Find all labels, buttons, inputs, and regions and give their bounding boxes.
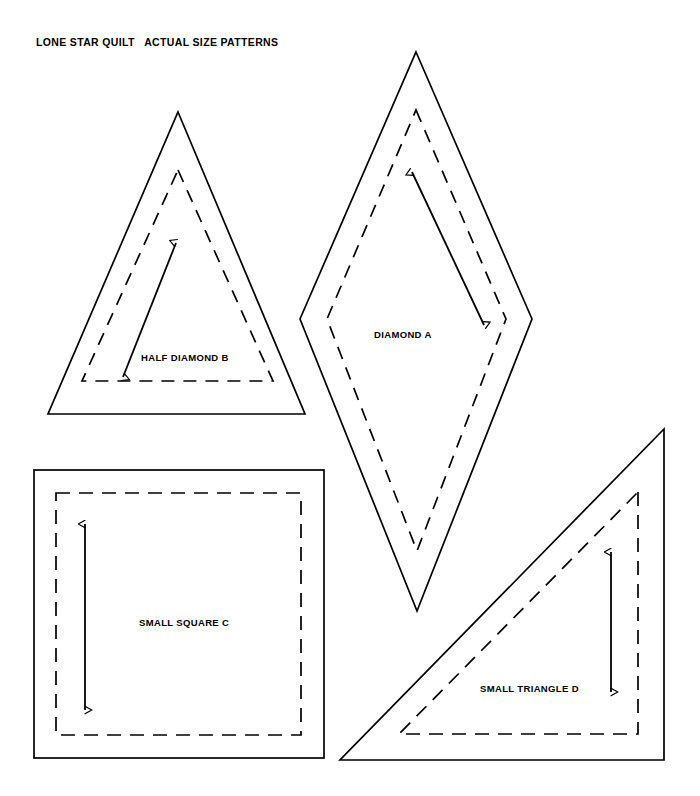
pattern-label-diamond-a: DIAMOND A (374, 330, 432, 340)
pattern-sheet: LONE STAR QUILT ACTUAL SIZE PATTERNS (0, 0, 700, 796)
half-diamond-b-outline (48, 112, 305, 414)
half-diamond-b-seam-line (82, 170, 273, 381)
diamond-a-grain-arrow (412, 172, 484, 325)
small-square-c-seam-line (56, 493, 301, 735)
pattern-label-half-diamond-b: HALF DIAMOND B (141, 353, 229, 363)
small-triangle-d-seam-line (399, 492, 638, 734)
pattern-canvas (0, 0, 700, 796)
small-square-c-outline (34, 470, 324, 758)
pattern-label-small-triangle-d: SMALL TRIANGLE D (480, 684, 579, 694)
pattern-label-small-square-c: SMALL SQUARE C (139, 618, 229, 628)
